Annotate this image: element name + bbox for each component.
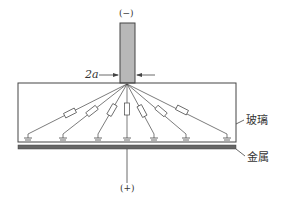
width-label: 2a — [85, 69, 99, 80]
negative-terminal-label: (−) — [119, 9, 134, 18]
metal-plate — [18, 145, 236, 149]
diagram — [0, 0, 285, 203]
electrode — [120, 23, 135, 83]
ground-icons — [24, 138, 231, 140]
metal-label: 金属 — [247, 152, 269, 163]
positive-terminal-label: (+) — [120, 184, 135, 193]
resistor-branches — [28, 84, 227, 138]
glass-label: 玻璃 — [246, 115, 268, 126]
